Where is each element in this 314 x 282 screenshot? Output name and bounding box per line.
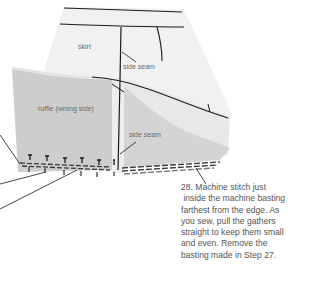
caption-line: 28. Machine stitch just bbox=[181, 182, 311, 193]
caption-line: farthest from the edge. As bbox=[181, 205, 311, 216]
caption-line: and even. Remove the bbox=[181, 238, 311, 249]
leader-line-3 bbox=[0, 170, 77, 209]
label-side-seam-lower: side seam bbox=[129, 131, 161, 138]
caption-line: straight to keep them small bbox=[181, 227, 311, 238]
step-caption: 28. Machine stitch just inside the machi… bbox=[181, 182, 311, 261]
label-ruffle: ruffle (wrong side) bbox=[38, 105, 94, 112]
caption-line: basting made in Step 27. bbox=[181, 250, 311, 261]
leader-line-2 bbox=[0, 172, 46, 184]
label-skirt: skirt bbox=[78, 43, 91, 50]
ruffle-panel bbox=[12, 69, 113, 172]
caption-line: inside the machine basting bbox=[181, 193, 311, 204]
label-side-seam-upper: side seam bbox=[123, 63, 155, 70]
caption-line: you sew, pull the gathers bbox=[181, 216, 311, 227]
